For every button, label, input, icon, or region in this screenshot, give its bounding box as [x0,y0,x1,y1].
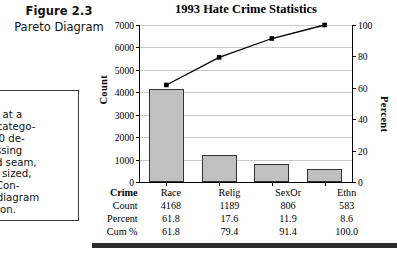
cumulative-percent-line [140,25,351,182]
table-cell: Relig [200,186,259,199]
table-cell: 806 [259,199,318,212]
table-cell: 91.4 [259,225,318,238]
table-row-label: Crime [92,186,142,199]
line-marker [164,83,169,88]
y-axis-tick-label-right: 60 [358,82,368,93]
y-axis-tick-right [352,25,356,26]
note-line: rmation. [0,204,73,216]
y-axis-tick-label-left: 3000 [115,109,134,120]
y-axis-tick-right [352,88,356,89]
line-marker [217,55,222,60]
note-line: ector at a [0,109,73,121]
y-axis-tick-label-right: 100 [358,20,372,31]
y-axis-tick-label-left: 6000 [115,42,134,53]
note-line: law. Con- [0,180,73,192]
y-axis-tick-label-left: 1000 [115,154,134,165]
chart-title: 1993 Hate Crime Statistics [139,2,353,17]
note-line: reto diagram [0,192,73,204]
note-line: —bad seam, [0,157,73,169]
y-axis-tick-label-right: 80 [358,51,368,62]
table-cell: Ethn [317,186,376,199]
table-cell: 61.8 [142,212,201,225]
table-row-label: Count [92,199,142,212]
table-cell: SexOr [259,186,318,199]
figure-page: Figure 2.3 Pareto Diagram .4ector at ato… [0,0,397,254]
table-cell: Race [142,186,201,199]
table-cell: 583 [317,199,376,212]
y-axis-tick-label-left: 4000 [115,87,134,98]
table-row-label: Cum % [92,225,142,238]
table-row: Cum %61.879.491.4100.0 [92,225,376,238]
note-line: st 500 de- [0,133,73,145]
y-axis-tick-left [136,182,140,183]
figure-label: Figure 2.3 [0,4,118,18]
table-row: CrimeRaceReligSexOrEthn [92,186,376,199]
y-axis-tick-label-left: 7000 [115,20,134,31]
line-marker [322,23,327,28]
table-cell: 4168 [142,199,201,212]
line-marker [270,36,275,41]
y-axis-tick-label-left: 5000 [115,64,134,75]
y-axis-title-percent: Percent [379,96,390,132]
note-line: perly sized, [0,168,73,180]
note-line: tory catego- [0,121,73,133]
note-line: —missing [0,145,73,157]
table-row: Percent61.817.611.98.6 [92,212,376,225]
pareto-plot-area: 0100020003000400050006000700002040608010… [139,25,353,183]
y-axis-tick-right [352,119,356,120]
y-axis-tick-right [352,56,356,57]
table-row: Count41681189806583 [92,199,376,212]
exercise-note-box: .4ector at atory catego-st 500 de-—missi… [0,90,79,221]
figure-caption: Pareto Diagram [0,20,118,34]
table-row-label: Percent [92,212,142,225]
note-line: .4 [0,97,73,109]
table-cell: 100.0 [317,225,376,238]
pareto-data-table: CrimeRaceReligSexOrEthnCount416811898065… [92,186,376,238]
table-cell: 61.8 [142,225,201,238]
y-axis-tick-right [352,182,356,183]
page-footer-bar [92,243,397,248]
y-axis-tick-label-left: 2000 [115,132,134,143]
y-axis-tick-right [352,151,356,152]
y-axis-tick-label-right: 20 [358,145,368,156]
table-cell: 11.9 [259,212,318,225]
table-cell: 1189 [200,199,259,212]
table-cell: 17.6 [200,212,259,225]
y-axis-tick-label-right: 40 [358,114,368,125]
table-cell: 79.4 [200,225,259,238]
y-axis-title-count: Count [98,75,109,105]
table-cell: 8.6 [317,212,376,225]
